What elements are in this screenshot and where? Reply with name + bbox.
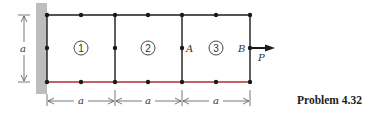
load-arrow-icon [250,45,275,52]
load-label: P [257,52,265,63]
svg-text:2: 2 [145,43,151,54]
dimension-label-3: a [213,95,219,106]
dimension-label-vertical: a [20,43,26,54]
dimension-label-2: a [145,95,151,106]
dimension-label-1: a [78,95,84,106]
element-2-label: 2 [141,41,155,55]
svg-text:1: 1 [78,43,84,54]
problem-caption: Problem 4.32 [297,94,362,106]
element-3-label: 3 [209,41,223,55]
svg-text:3: 3 [213,43,219,54]
element-1-label: 1 [74,41,88,55]
node-label-a: A [185,43,193,54]
node-label-b: B [237,43,245,54]
